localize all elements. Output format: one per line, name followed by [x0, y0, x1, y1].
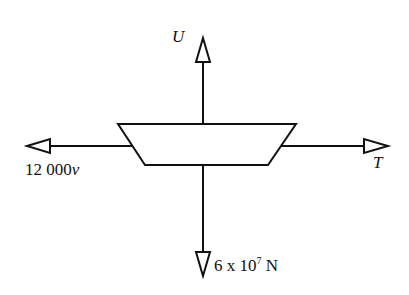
arrowhead-down-icon [196, 252, 210, 276]
force-label-down-exponent: 7 [257, 255, 262, 266]
force-label-down-coef: 6 x 10 [214, 256, 257, 275]
arrowhead-right-icon [364, 139, 388, 153]
force-label-left-variable: v [72, 160, 80, 179]
force-label-right: T [373, 154, 382, 171]
force-label-down-unit: N [262, 256, 279, 275]
force-label-down: 6 x 107 N [214, 257, 278, 274]
force-label-left: 12 000v [25, 161, 79, 178]
boat-body [118, 124, 296, 165]
force-label-up: U [172, 28, 184, 45]
arrowhead-left-icon [27, 139, 50, 153]
force-diagram [0, 0, 409, 295]
arrowhead-up-icon [196, 38, 210, 62]
force-label-left-value: 12 000 [25, 160, 72, 179]
